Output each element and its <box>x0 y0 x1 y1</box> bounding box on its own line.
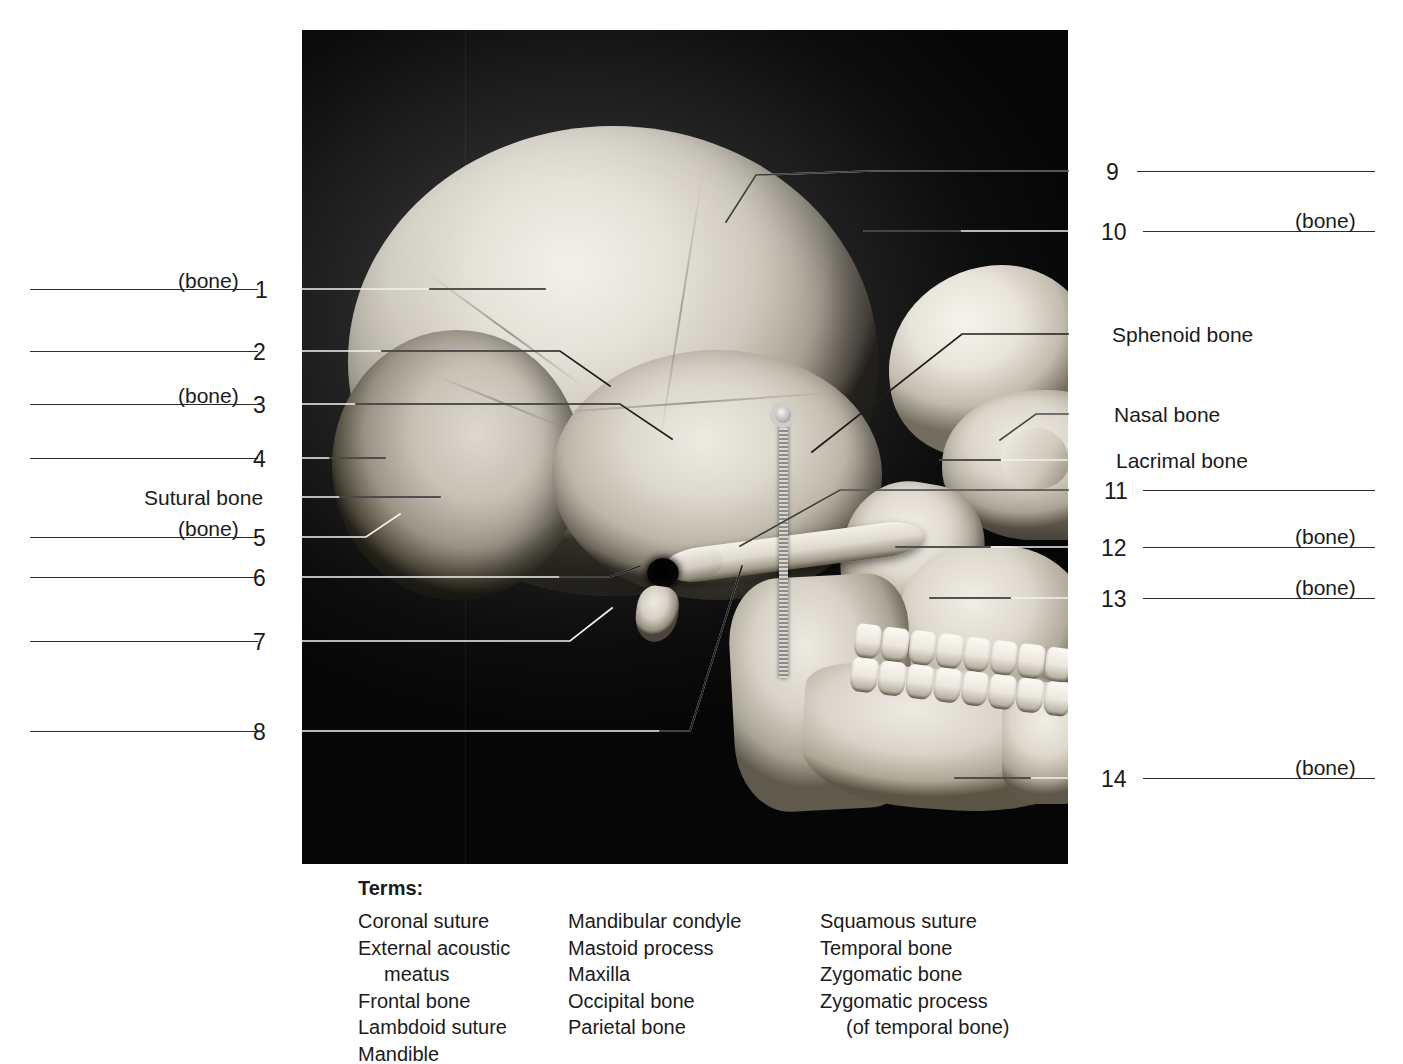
answer-blank-11[interactable] <box>1143 490 1375 491</box>
label-number-14: 14 <box>1101 768 1127 791</box>
label-sphenoid-bone: Sphenoid bone <box>1112 324 1253 345</box>
label-number-2: 2 <box>253 341 266 364</box>
term-item[interactable]: Frontal bone <box>358 988 510 1015</box>
label-number-7: 7 <box>253 631 266 654</box>
answer-blank-2[interactable] <box>30 351 258 352</box>
label-number-12: 12 <box>1101 537 1127 560</box>
bone-suffix-5: (bone) <box>178 518 239 539</box>
mounting-rod <box>779 422 788 678</box>
label-number-9: 9 <box>1106 161 1119 184</box>
label-number-5: 5 <box>253 527 266 550</box>
answer-blank-7[interactable] <box>30 641 258 642</box>
terms-column-1: Coronal sutureExternal acousticmeatusFro… <box>358 908 510 1064</box>
term-item[interactable]: Mandibular condyle <box>568 908 741 935</box>
term-item[interactable]: (of temporal bone) <box>820 1014 1009 1041</box>
label-number-4: 4 <box>253 448 266 471</box>
terms-column-3: Squamous sutureTemporal boneZygomatic bo… <box>820 908 1009 1041</box>
term-item[interactable]: meatus <box>358 961 510 988</box>
label-number-6: 6 <box>253 567 266 590</box>
term-item[interactable]: Coronal suture <box>358 908 510 935</box>
term-item[interactable]: Occipital bone <box>568 988 741 1015</box>
terms-header: Terms: <box>358 878 423 898</box>
skull-photograph <box>302 30 1068 864</box>
term-item[interactable]: Zygomatic process <box>820 988 1009 1015</box>
answer-blank-9[interactable] <box>1137 171 1375 172</box>
term-item[interactable]: Mastoid process <box>568 935 741 962</box>
term-item[interactable]: Temporal bone <box>820 935 1009 962</box>
label-number-8: 8 <box>253 721 266 744</box>
external-acoustic-meatus-shape <box>647 558 679 588</box>
bone-suffix-3: (bone) <box>178 385 239 406</box>
term-item[interactable]: Lambdoid suture <box>358 1014 510 1041</box>
mounting-rod-ring <box>770 402 796 428</box>
occipital-bone-shape <box>332 330 582 600</box>
label-nasal-bone: Nasal bone <box>1114 404 1220 425</box>
term-item[interactable]: Maxilla <box>568 961 741 988</box>
bone-suffix-10: (bone) <box>1295 210 1356 231</box>
bone-suffix-13: (bone) <box>1295 577 1356 598</box>
label-number-3: 3 <box>253 394 266 417</box>
label-number-10: 10 <box>1101 221 1127 244</box>
label-number-11: 11 <box>1104 480 1128 503</box>
label-number-1: 1 <box>255 279 268 302</box>
label-sutural-bone: Sutural bone <box>144 487 263 508</box>
term-item[interactable]: External acoustic <box>358 935 510 962</box>
term-item[interactable]: Zygomatic bone <box>820 961 1009 988</box>
label-lacrimal-bone: Lacrimal bone <box>1116 450 1248 471</box>
answer-blank-4[interactable] <box>30 458 258 459</box>
bone-suffix-1: (bone) <box>178 270 239 291</box>
term-item[interactable]: Squamous suture <box>820 908 1009 935</box>
label-number-13: 13 <box>1101 588 1127 611</box>
terms-column-2: Mandibular condyleMastoid processMaxilla… <box>568 908 741 1041</box>
answer-blank-6[interactable] <box>30 577 258 578</box>
bone-suffix-14: (bone) <box>1295 757 1356 778</box>
answer-blank-8[interactable] <box>30 731 258 732</box>
term-item[interactable]: Parietal bone <box>568 1014 741 1041</box>
term-item[interactable]: Mandible <box>358 1041 510 1064</box>
bone-suffix-12: (bone) <box>1295 526 1356 547</box>
terms-bank: Terms: <box>358 878 423 907</box>
